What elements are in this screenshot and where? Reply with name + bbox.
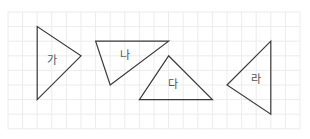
triangle-outline <box>37 27 81 100</box>
triangle-ga: 가 <box>37 27 81 100</box>
triangle-label: 가 <box>47 54 57 67</box>
triangle-da: 다 <box>139 56 212 100</box>
triangle-outline <box>227 41 271 114</box>
triangle-grid-diagram: 가나다라 <box>0 0 310 139</box>
triangle-label: 나 <box>120 49 130 62</box>
grid <box>8 12 300 129</box>
triangle-ra: 라 <box>227 41 271 114</box>
triangle-label: 라 <box>251 73 261 86</box>
triangle-label: 다 <box>168 78 178 91</box>
triangle-outline <box>96 41 169 85</box>
triangle-na: 나 <box>96 41 169 85</box>
